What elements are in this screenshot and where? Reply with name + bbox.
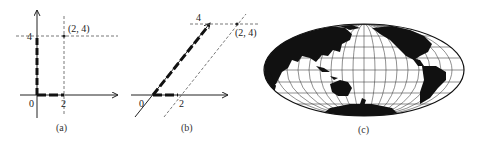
- y-tick-label: 4: [27, 31, 32, 42]
- point-2-4: [62, 34, 65, 37]
- x-tick-label: 2: [61, 98, 66, 109]
- caption-a: (a): [56, 122, 67, 134]
- panel-a: 4 0 2 (2, 4) (a): [16, 10, 118, 134]
- figure-canvas: 4 0 2 (2, 4) (a) 4 0 2 (2, 4) (b): [0, 0, 480, 145]
- point-label: (2, 4): [68, 23, 90, 35]
- origin-label: 0: [29, 98, 34, 109]
- caption-b: (b): [181, 122, 193, 134]
- point-2-4: [235, 22, 238, 25]
- panel-b: 4 0 2 (2, 4) (b): [131, 12, 258, 134]
- point-label: (2, 4): [235, 27, 257, 39]
- y-tick-label: 4: [196, 12, 201, 23]
- x-tick-label: 2: [179, 98, 184, 109]
- panel-c: (c): [262, 24, 464, 136]
- origin-label: 0: [139, 98, 144, 109]
- caption-c: (c): [358, 124, 369, 136]
